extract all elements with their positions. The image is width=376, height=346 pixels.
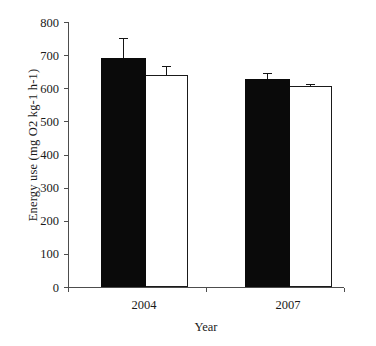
error-bar-cap bbox=[162, 66, 171, 67]
bar bbox=[289, 86, 332, 287]
y-tick-label: 500 bbox=[40, 114, 59, 129]
y-tick-label: 600 bbox=[40, 81, 59, 96]
bar bbox=[101, 58, 146, 287]
x-tick bbox=[68, 288, 69, 292]
x-tick bbox=[344, 288, 345, 292]
bar bbox=[145, 75, 188, 287]
error-bar bbox=[157, 66, 177, 75]
bar-chart-figure: Energy use (mg O2 kg-1 h-1) 010020030040… bbox=[0, 0, 376, 346]
y-tick-label: 200 bbox=[40, 214, 59, 229]
error-bar bbox=[258, 73, 278, 79]
error-bar-cap bbox=[119, 38, 128, 39]
y-tick: 300 bbox=[64, 188, 68, 189]
error-bar-cap bbox=[263, 73, 272, 74]
error-bar-stem bbox=[166, 66, 167, 75]
y-tick-label: 300 bbox=[40, 181, 59, 196]
y-tick: 500 bbox=[64, 121, 68, 122]
y-tick-label: 100 bbox=[40, 247, 59, 262]
x-tick-label: 2007 bbox=[248, 298, 328, 313]
bar bbox=[245, 79, 290, 287]
y-tick-label: 700 bbox=[40, 48, 59, 63]
error-bar bbox=[114, 38, 134, 58]
y-tick: 800 bbox=[64, 22, 68, 23]
error-bar bbox=[301, 84, 321, 86]
y-tick-label: 400 bbox=[40, 148, 59, 163]
x-tick-label: 2004 bbox=[104, 298, 184, 313]
error-bar-stem bbox=[123, 38, 124, 58]
y-tick: 600 bbox=[64, 88, 68, 89]
x-tick bbox=[206, 288, 207, 292]
plot-area: 0100200300400500600700800 20042007 bbox=[68, 22, 344, 287]
y-tick: 100 bbox=[64, 254, 68, 255]
y-tick: 200 bbox=[64, 221, 68, 222]
y-tick: 400 bbox=[64, 155, 68, 156]
y-tick-label: 800 bbox=[40, 15, 59, 30]
x-axis-title: Year bbox=[68, 320, 344, 335]
y-tick: 700 bbox=[64, 55, 68, 56]
y-tick-label: 0 bbox=[53, 280, 59, 295]
error-bar-cap bbox=[306, 84, 315, 85]
y-axis-line bbox=[68, 22, 69, 288]
